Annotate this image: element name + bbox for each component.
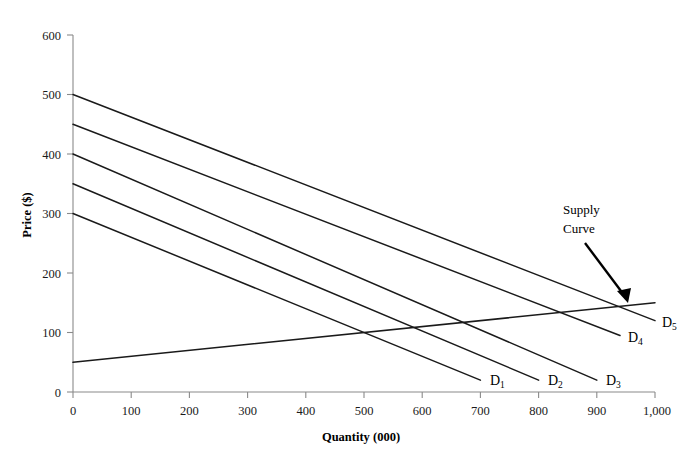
series-label-d1-subscript: 1	[500, 380, 505, 390]
y-axis-title: Price ($)	[20, 192, 34, 237]
series-label-d3-subscript: 3	[616, 380, 621, 390]
y-tick-label-500: 500	[42, 88, 61, 102]
series-label-d2-text: D	[548, 373, 558, 388]
series-label-d5-subscript: 5	[672, 322, 677, 332]
y-tick-label-300: 300	[42, 207, 61, 221]
series-label-d3-text: D	[606, 373, 616, 388]
series-label-d5-text: D	[662, 315, 672, 330]
chart-svg: 600 500 400 300 200 100 0 0 100 200	[0, 0, 696, 467]
x-axis-title: Quantity (000)	[322, 430, 400, 444]
series-label-d1-text: D	[490, 373, 500, 388]
economics-supply-demand-chart: 600 500 400 300 200 100 0 0 100 200	[0, 0, 696, 467]
y-tick-label-600: 600	[42, 29, 61, 43]
x-tick-label-0: 0	[70, 404, 76, 418]
x-tick-label-600: 600	[413, 404, 432, 418]
x-tick-label-400: 400	[296, 404, 315, 418]
supply-annotation-line2: Curve	[563, 221, 595, 236]
x-tick-label-500: 500	[355, 404, 374, 418]
supply-annotation-line1: Supply	[563, 202, 600, 217]
series-label-d2-subscript: 2	[558, 380, 563, 390]
x-tick-label-900: 900	[587, 404, 606, 418]
series-label-d4-text: D	[628, 330, 638, 345]
x-tick-label-800: 800	[529, 404, 548, 418]
x-tick-label-100: 100	[122, 404, 141, 418]
y-tick-label-0: 0	[55, 386, 61, 400]
y-tick-label-200: 200	[42, 267, 61, 281]
y-tick-label-100: 100	[42, 326, 61, 340]
x-tick-label-200: 200	[180, 404, 199, 418]
y-tick-label-400: 400	[42, 148, 61, 162]
x-tick-label-1000: 1,000	[643, 404, 671, 418]
x-tick-label-300: 300	[238, 404, 257, 418]
series-label-d4-subscript: 4	[638, 337, 643, 347]
x-tick-label-700: 700	[471, 404, 490, 418]
